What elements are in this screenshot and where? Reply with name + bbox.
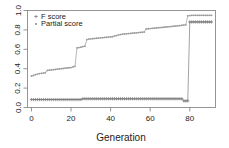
x-tick-label: 60 xyxy=(146,114,155,123)
y-tick-label: 0.2 xyxy=(14,82,23,94)
y-tick-label: 0.8 xyxy=(14,24,23,36)
x-axis-title: Generation xyxy=(96,132,145,143)
y-tick-label: 0.0 xyxy=(14,101,23,113)
legend-item-label: Partial score xyxy=(41,19,83,28)
x-tick-label: 40 xyxy=(106,114,115,123)
y-tick-label: 0.6 xyxy=(14,43,23,55)
x-tick-label: 20 xyxy=(67,114,76,123)
chart-canvas: 0.00.20.40.60.81.0 020406080 F scorePart… xyxy=(0,0,229,148)
y-tick-label: 1.0 xyxy=(14,4,23,16)
chart-figure: 0.00.20.40.60.81.0 020406080 F scorePart… xyxy=(0,0,229,148)
x-tick-label: 0 xyxy=(29,114,34,123)
y-tick-label: 0.4 xyxy=(14,63,23,75)
x-tick-label: 80 xyxy=(185,114,194,123)
